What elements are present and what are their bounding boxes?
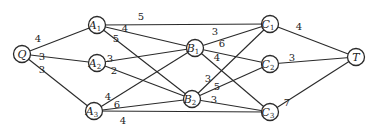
- node-subscript: 2: [97, 63, 101, 71]
- edge-weight-label: 3: [39, 64, 45, 75]
- edge-b2-c2: [192, 64, 270, 99]
- network-diagram: 43354532464364353437 QA1A2A3B1B2C1C2C3T: [0, 0, 379, 132]
- edge-weight-label: 5: [138, 11, 144, 22]
- edge-weight-label: 2: [111, 65, 117, 76]
- node-t: T: [348, 49, 365, 66]
- edge-weight-label: 3: [205, 73, 211, 84]
- edge-weight-label: 3: [212, 26, 218, 37]
- edge-a3-c3: [94, 111, 270, 112]
- node-subscript: 3: [94, 111, 98, 119]
- node-subscript: 1: [195, 48, 199, 56]
- edge-weight-label: 3: [39, 51, 45, 62]
- node-label: Q: [17, 48, 26, 61]
- node-c3: C3: [262, 104, 279, 121]
- node-subscript: 2: [270, 64, 274, 72]
- node-b2: B2: [183, 91, 201, 108]
- edge-weight-label: 3: [107, 53, 113, 64]
- node-c2: C2: [262, 56, 279, 73]
- edge-b1-c1: [195, 24, 270, 48]
- node-q: Q: [14, 46, 31, 63]
- node-a2: A2: [88, 55, 106, 72]
- edge-weight-label: 4: [105, 91, 111, 102]
- edge-weight-label: 4: [120, 115, 126, 126]
- node-c1: C1: [262, 16, 279, 33]
- edge-weight-label: 5: [214, 81, 220, 92]
- node-a1: A1: [88, 17, 106, 34]
- node-subscript: 2: [192, 99, 196, 107]
- edge-weight-label: 4: [122, 23, 128, 34]
- edge-c2-t: [270, 57, 356, 64]
- edge-q-a3: [22, 54, 94, 111]
- edge-weight-label: 4: [296, 21, 302, 32]
- edge-q-a1: [22, 25, 97, 54]
- edge-weight-label: 5: [113, 33, 119, 44]
- node-subscript: 1: [270, 24, 274, 32]
- node-b1: B1: [186, 40, 204, 57]
- nodes-layer: QA1A2A3B1B2C1C2C3T: [14, 16, 365, 121]
- edge-weight-label: 4: [214, 52, 220, 63]
- edge-weight-label: 4: [35, 33, 41, 44]
- node-subscript: 3: [270, 112, 274, 120]
- node-subscript: 1: [97, 25, 101, 33]
- edge-b2-c3: [192, 99, 270, 112]
- edge-b1-c2: [195, 48, 270, 64]
- edge-weight-label: 7: [284, 97, 290, 108]
- edge-weight-label: 6: [219, 38, 225, 49]
- node-a3: A3: [85, 103, 103, 120]
- edge-c1-t: [270, 24, 356, 57]
- edge-q-a2: [22, 54, 97, 63]
- edge-weight-label: 6: [114, 99, 120, 110]
- edge-weight-label: 3: [211, 94, 217, 105]
- edge-weight-label: 3: [289, 52, 295, 63]
